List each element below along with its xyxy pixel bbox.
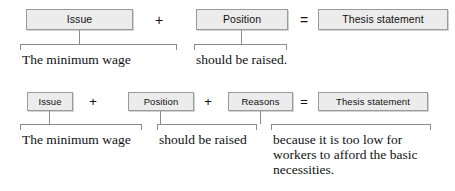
row2-bracket-issue (20, 124, 142, 130)
row2-caption-position: should be raised (159, 132, 247, 147)
row2-caption-reasons: because it is too low for workers to aff… (273, 132, 433, 177)
row1-bracket-position (194, 44, 287, 50)
row1-operator-plus: + (151, 13, 167, 27)
row2-box-thesis-statement: Thesis statement (318, 92, 428, 111)
row2-connector-stem-issue (49, 111, 50, 124)
thesis-formula-diagram: Issue + Position = Thesis statement The … (0, 0, 455, 191)
row2-operator-plus-1: + (85, 95, 101, 108)
row2-operator-equals: = (296, 95, 312, 108)
row2-connector-stem-reasons (260, 111, 261, 124)
row2-bracket-reasons (271, 124, 431, 130)
row1-box-position: Position (196, 9, 288, 30)
row1-caption-position: should be raised. (196, 52, 287, 67)
row2-box-position: Position (128, 92, 194, 111)
row1-box-thesis-statement: Thesis statement (318, 9, 448, 30)
row1-caption-issue: The minimum wage (22, 52, 131, 67)
row1-bracket-issue (20, 44, 177, 50)
row2-operator-plus-2: + (200, 95, 216, 108)
row2-bracket-position (157, 124, 257, 130)
row1-connector-stem-issue (79, 30, 80, 44)
row2-box-reasons: Reasons (228, 92, 293, 111)
row2-caption-issue: The minimum wage (22, 132, 131, 147)
row1-box-issue: Issue (26, 9, 133, 30)
row2-connector-stem-position (160, 111, 161, 124)
row1-connector-stem-position (241, 30, 242, 44)
row1-operator-equals: = (296, 13, 312, 27)
row2-box-issue: Issue (27, 92, 73, 111)
